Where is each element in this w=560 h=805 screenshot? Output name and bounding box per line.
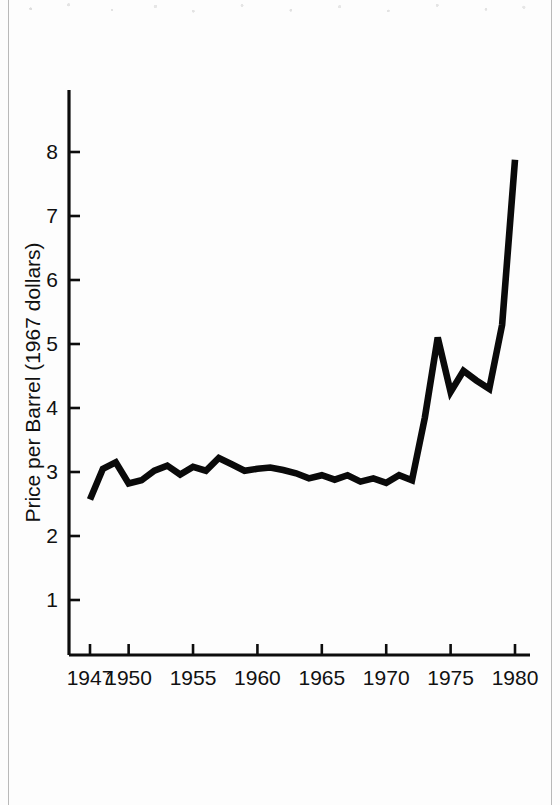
x-tick-label-1980: 1980 bbox=[492, 666, 539, 689]
line-chart: 12345678 1947195019551960196519701975198… bbox=[0, 0, 560, 805]
y-tick-label-2: 2 bbox=[46, 524, 58, 547]
x-tick-label-1955: 1955 bbox=[170, 666, 217, 689]
y-axis-ticks bbox=[69, 152, 80, 600]
y-tick-label-4: 4 bbox=[46, 396, 58, 419]
y-tick-label-6: 6 bbox=[46, 268, 58, 291]
x-axis-tick-labels: 19471950195519601965197019751980 bbox=[67, 666, 539, 689]
y-axis-tick-labels: 12345678 bbox=[46, 140, 58, 611]
x-tick-label-1970: 1970 bbox=[363, 666, 410, 689]
x-axis-group: 19471950195519601965197019751980 bbox=[67, 644, 539, 689]
x-axis-ticks bbox=[90, 644, 515, 655]
y-tick-label-7: 7 bbox=[46, 204, 58, 227]
y-tick-label-8: 8 bbox=[46, 140, 58, 163]
figure-root: 12345678 1947195019551960196519701975198… bbox=[0, 0, 560, 805]
price-per-barrel-line bbox=[90, 160, 515, 500]
x-tick-label-1950: 1950 bbox=[105, 666, 152, 689]
y-tick-label-5: 5 bbox=[46, 332, 58, 355]
y-axis-group: 12345678 bbox=[46, 90, 80, 655]
data-series-group bbox=[90, 160, 515, 500]
x-tick-label-1965: 1965 bbox=[298, 666, 345, 689]
y-axis-title: Price per Barrel (1967 dollars) bbox=[21, 242, 44, 522]
y-tick-label-1: 1 bbox=[46, 588, 58, 611]
x-tick-label-1960: 1960 bbox=[234, 666, 281, 689]
x-tick-label-1975: 1975 bbox=[427, 666, 474, 689]
y-tick-label-3: 3 bbox=[46, 460, 58, 483]
